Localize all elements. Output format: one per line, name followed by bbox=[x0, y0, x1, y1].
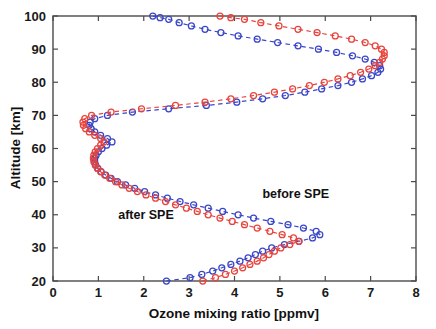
x-tick-label: 3 bbox=[186, 285, 193, 300]
data-point bbox=[183, 205, 189, 211]
y-tick-label: 70 bbox=[32, 108, 46, 123]
y-tick-label: 90 bbox=[32, 42, 46, 57]
axis-tick-labels-layer: 0123456782030405060708090100 bbox=[24, 9, 419, 301]
series-before-spe bbox=[86, 13, 383, 284]
x-tick-label: 0 bbox=[49, 285, 56, 300]
data-series-layer bbox=[80, 13, 387, 284]
y-tick-label: 60 bbox=[32, 141, 46, 156]
y-tick-label: 30 bbox=[32, 240, 46, 255]
data-point bbox=[347, 73, 353, 79]
x-tick-label: 2 bbox=[140, 285, 147, 300]
data-point bbox=[222, 271, 228, 277]
x-tick-label: 4 bbox=[231, 285, 239, 300]
y-tick-label: 80 bbox=[32, 75, 46, 90]
data-point bbox=[372, 43, 378, 49]
data-point bbox=[210, 268, 216, 274]
x-tick-label: 7 bbox=[367, 285, 374, 300]
data-point bbox=[313, 228, 319, 234]
y-tick-label: 40 bbox=[32, 207, 46, 222]
data-point bbox=[252, 252, 258, 258]
annotation-before-spe: before SPE bbox=[262, 187, 329, 201]
series-annotations-layer: before SPEafter SPE bbox=[118, 187, 329, 222]
ozone-profile-chart: 0123456782030405060708090100 before SPEa… bbox=[0, 0, 436, 329]
y-tick-label: 100 bbox=[24, 9, 46, 24]
data-point bbox=[205, 212, 211, 218]
x-tick-label: 5 bbox=[276, 285, 283, 300]
annotation-after-spe: after SPE bbox=[118, 208, 174, 222]
x-tick-label: 6 bbox=[322, 285, 329, 300]
x-tick-label: 8 bbox=[412, 285, 419, 300]
data-point bbox=[260, 248, 266, 254]
x-axis-title: Ozone mixing ratio [ppmv] bbox=[149, 306, 319, 321]
data-point bbox=[349, 79, 355, 85]
y-tick-label: 20 bbox=[32, 274, 46, 289]
x-tick-label: 1 bbox=[95, 285, 102, 300]
y-tick-label: 50 bbox=[32, 174, 46, 189]
y-axis-title: Altitude [km] bbox=[8, 107, 23, 190]
series-line bbox=[83, 16, 384, 281]
data-point bbox=[245, 255, 251, 261]
ozone-profile-figure: 0123456782030405060708090100 before SPEa… bbox=[0, 0, 436, 329]
